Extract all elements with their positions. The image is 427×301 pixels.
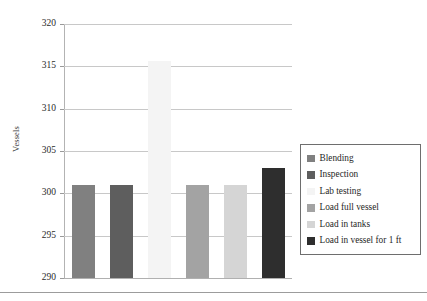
legend-item-label: Blending	[320, 154, 354, 163]
bar-5	[224, 185, 247, 278]
bar-chart-figure: Vessels 320315310305300295290 BlendingIn…	[0, 0, 427, 301]
legend-item[interactable]: Lab testing	[307, 183, 415, 200]
legend-item[interactable]: Load in tanks	[307, 216, 415, 233]
bottom-divider	[0, 292, 427, 293]
y-tick-label-290: 290	[28, 273, 56, 283]
legend-item-label: Load in tanks	[320, 220, 371, 229]
bar-3	[148, 61, 171, 278]
legend-swatch-icon	[307, 204, 315, 212]
y-tick-label-310: 310	[28, 104, 56, 114]
bar-4	[186, 185, 209, 278]
legend-item[interactable]: Load full vessel	[307, 200, 415, 217]
bars-group	[64, 24, 292, 278]
legend-swatch-icon	[307, 188, 315, 196]
legend-swatch-icon	[307, 221, 315, 229]
legend-item-label: Inspection	[320, 170, 359, 179]
legend-item-label: Load in vessel for 1 ft	[320, 236, 402, 245]
chart-legend: BlendingInspectionLab testingLoad full v…	[300, 144, 421, 255]
gridline-290	[64, 278, 292, 279]
legend-item-label: Load full vessel	[320, 203, 379, 212]
legend-item[interactable]: Load in vessel for 1 ft	[307, 233, 415, 250]
y-tick-label-315: 315	[28, 61, 56, 71]
y-tick-label-320: 320	[28, 19, 56, 29]
legend-item-label: Lab testing	[320, 187, 362, 196]
legend-swatch-icon	[307, 237, 315, 245]
bar-6	[262, 168, 285, 278]
y-tick-mark-290	[60, 278, 64, 279]
bar-1	[72, 185, 95, 278]
legend-swatch-icon	[307, 171, 315, 179]
y-tick-label-295: 295	[28, 231, 56, 241]
legend-item[interactable]: Blending	[307, 150, 415, 167]
legend-item[interactable]: Inspection	[307, 167, 415, 184]
y-tick-label-300: 300	[28, 188, 56, 198]
y-tick-label-305: 305	[28, 146, 56, 156]
legend-swatch-icon	[307, 155, 315, 163]
y-axis-title: Vessels	[11, 109, 21, 169]
bar-2	[110, 185, 133, 278]
